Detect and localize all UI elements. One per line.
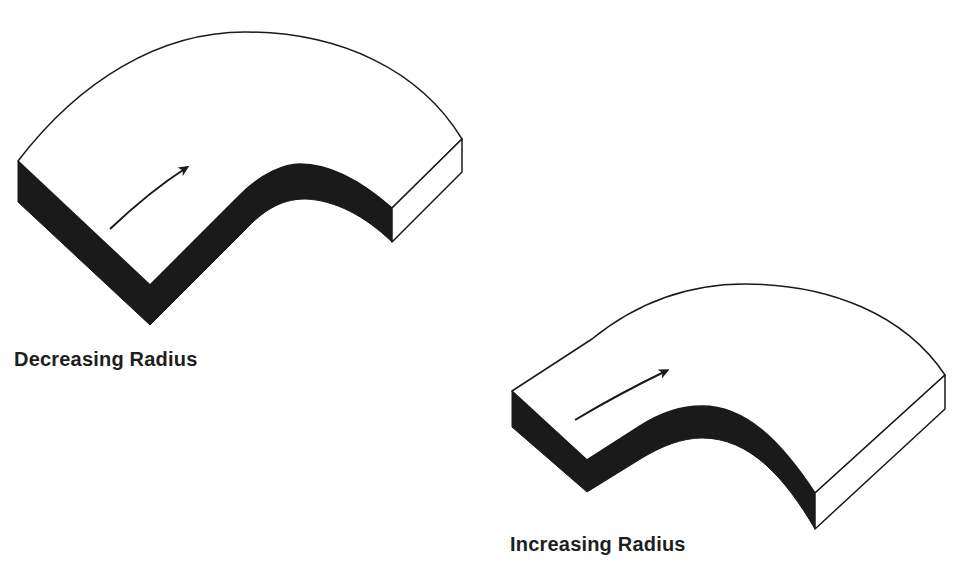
diagram-canvas: Decreasing Radius Increasing Radius	[0, 0, 976, 561]
decreasing-radius-shape	[18, 32, 462, 325]
curves-illustration	[0, 0, 976, 561]
increasing-radius-label: Increasing Radius	[510, 533, 686, 556]
decreasing-radius-label: Decreasing Radius	[14, 348, 197, 371]
increasing-radius-shape	[512, 284, 945, 529]
